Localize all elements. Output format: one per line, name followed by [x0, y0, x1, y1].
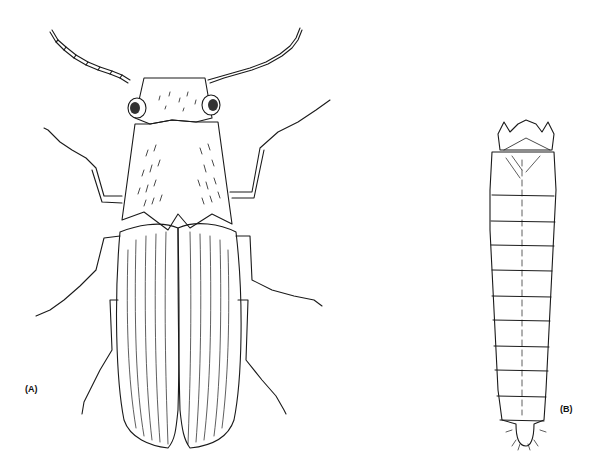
elytron-left [117, 224, 180, 448]
larva-segments [491, 195, 555, 421]
antenna-right [208, 28, 302, 83]
head [135, 78, 212, 124]
antenna-left [50, 30, 130, 83]
illustration [0, 0, 606, 476]
legs [36, 100, 330, 414]
panel-label-b: (B) [560, 404, 573, 414]
larva [490, 120, 556, 450]
beetle-adult [36, 28, 330, 448]
panel-label-a: (A) [25, 384, 38, 394]
elytron-right [178, 224, 241, 448]
larva-head [498, 120, 554, 150]
pronotum [122, 120, 232, 230]
